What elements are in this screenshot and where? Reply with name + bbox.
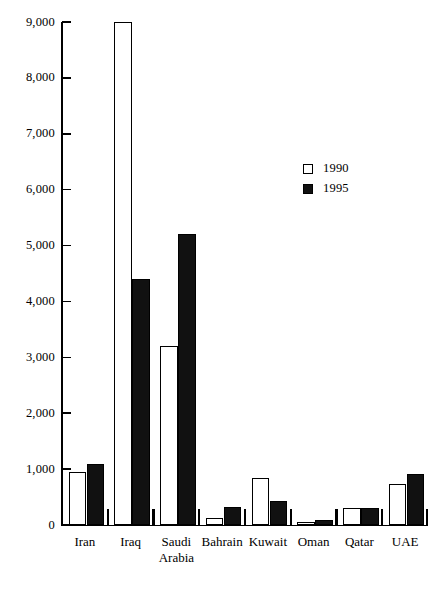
legend-swatch-filled-square-icon	[303, 184, 313, 194]
y-axis-tick-label: 4,000	[7, 295, 55, 308]
bar-bahrain-1990	[206, 518, 224, 525]
x-axis-category-tick	[381, 509, 383, 525]
legend: 1990 1995	[303, 160, 349, 200]
bar-iran-1995	[87, 464, 105, 525]
bar-oman-1990	[297, 522, 315, 525]
x-axis-label-uae: UAE	[374, 534, 436, 550]
x-axis-category-tick	[198, 509, 200, 525]
bar-saudi-arabia-1995	[178, 234, 196, 525]
bar-bahrain-1995	[224, 507, 242, 525]
legend-item-1990: 1990	[303, 160, 349, 177]
bar-uae-1995	[407, 474, 425, 525]
x-axis-category-tick	[290, 509, 292, 525]
y-axis-tick-label: 1,000	[7, 463, 55, 476]
y-axis-tick-label: 5,000	[7, 239, 55, 252]
y-axis-tick-label: 8,000	[7, 71, 55, 84]
x-axis-category-tick	[426, 509, 428, 525]
x-axis-label-line: UAE	[374, 534, 436, 550]
bar-kuwait-1990	[252, 478, 270, 525]
x-axis-category-tick	[152, 509, 154, 525]
legend-swatch-open-square-icon	[303, 164, 313, 174]
bar-uae-1990	[389, 484, 407, 525]
y-axis-tick-label: 7,000	[7, 127, 55, 140]
y-axis-tick-label: 2,000	[7, 407, 55, 420]
x-axis-category-tick	[244, 509, 246, 525]
legend-item-1995: 1995	[303, 180, 349, 197]
x-axis-label-line: Arabia	[146, 550, 208, 566]
y-axis-tick-label: 9,000	[7, 16, 55, 29]
bar-iran-1990	[69, 472, 87, 525]
bar-oman-1995	[315, 520, 333, 525]
legend-label-1990: 1990	[323, 162, 349, 175]
plot-area	[62, 22, 428, 525]
y-axis-tick-label: 3,000	[7, 351, 55, 364]
bar-kuwait-1995	[270, 501, 288, 525]
bar-iraq-1990	[114, 22, 132, 525]
x-axis-category-tick	[107, 509, 109, 525]
bar-chart: 01,0002,0003,0004,0005,0006,0007,0008,00…	[0, 0, 441, 593]
x-axis-category-tick	[335, 509, 337, 525]
legend-label-1995: 1995	[323, 182, 349, 195]
y-axis-tick-label: 0	[7, 519, 55, 532]
y-axis-tick-label: 6,000	[7, 183, 55, 196]
bar-qatar-1990	[343, 508, 361, 525]
bar-qatar-1995	[361, 508, 379, 525]
bar-iraq-1995	[132, 279, 150, 525]
bar-saudi-arabia-1990	[160, 346, 178, 525]
